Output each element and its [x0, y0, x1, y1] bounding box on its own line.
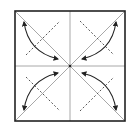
valley-fold-bottom-right: [80, 77, 114, 111]
fold-diagram-svg: [0, 0, 135, 130]
center-point: [69, 65, 72, 68]
valley-fold-top-right: [80, 21, 114, 55]
valley-fold-top-left: [26, 21, 60, 55]
valley-fold-bottom-left: [26, 77, 60, 111]
origami-diagram: [0, 0, 135, 130]
